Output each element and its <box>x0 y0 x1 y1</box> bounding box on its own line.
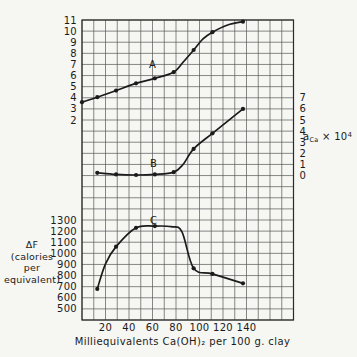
x-tick-labels: 20406080100120140 <box>99 322 257 333</box>
axis-tick-label: 3 <box>70 103 77 114</box>
data-point <box>210 30 214 34</box>
data-point <box>241 20 245 24</box>
axis-tick-label: 8 <box>70 48 77 59</box>
x-tick-label: 20 <box>99 322 112 333</box>
data-point <box>241 281 245 285</box>
axis-tick-label: 600 <box>57 292 77 303</box>
axis-tick-label: 1300 <box>50 215 77 226</box>
b-axis-title-sup: 4 <box>348 131 353 139</box>
axis-tick-label: 7 <box>300 92 307 103</box>
data-point <box>172 170 176 174</box>
axis-tick-label: 5 <box>300 115 307 126</box>
a-axis-ticks: 111098765432 <box>64 15 77 126</box>
axis-tick-label: 2 <box>300 148 307 159</box>
axis-tick-label: 9 <box>70 37 77 48</box>
axis-tick-label: 7 <box>70 59 77 70</box>
x-tick-label: 40 <box>122 322 135 333</box>
data-point <box>114 245 118 249</box>
data-point <box>95 287 99 291</box>
data-point <box>134 226 138 230</box>
axis-tick-label: 10 <box>64 26 77 37</box>
b-axis-title-mid: × 10 <box>319 131 348 142</box>
curve-C-label: C <box>150 215 157 226</box>
x-tick-label: 60 <box>146 322 159 333</box>
x-axis-title: Milliequivalents Ca(OH)₂ per 100 g. clay <box>0 336 357 347</box>
data-point <box>172 70 176 74</box>
curve-C-line <box>97 226 243 289</box>
axis-tick-label: 6 <box>70 70 77 81</box>
axis-tick-label: 5 <box>70 81 77 92</box>
c-axis-title: ΔF (calories per equivalent) <box>0 239 64 285</box>
data-point <box>114 88 118 92</box>
data-point <box>192 266 196 270</box>
data-point <box>134 81 138 85</box>
data-point <box>210 131 214 135</box>
axis-tick-label: 4 <box>70 92 77 103</box>
curve-A-line <box>82 22 243 103</box>
axis-tick-label: 0 <box>300 170 307 181</box>
grid <box>82 20 294 320</box>
x-tick-label: 100 <box>190 322 210 333</box>
data-point <box>80 100 84 104</box>
data-point <box>241 107 245 111</box>
x-tick-label: 80 <box>169 322 182 333</box>
axis-tick-label: 2 <box>70 115 77 126</box>
b-axis-title: aCa × 104 <box>303 131 352 144</box>
curve-A-label: A <box>149 59 156 70</box>
data-point <box>134 173 138 177</box>
data-point <box>210 272 214 276</box>
curve-B-label: B <box>150 158 157 169</box>
x-tick-label: 140 <box>237 322 257 333</box>
data-point <box>153 76 157 80</box>
axis-tick-label: 500 <box>57 303 77 314</box>
x-tick-label: 120 <box>213 322 233 333</box>
data-point <box>153 172 157 176</box>
axis-tick-label: 1200 <box>50 226 77 237</box>
b-axis-title-sub: Ca <box>309 136 318 144</box>
data-point <box>95 95 99 99</box>
axis-tick-label: 11 <box>64 15 77 26</box>
curve-A: A <box>80 20 245 105</box>
data-point <box>114 172 118 176</box>
data-point <box>192 147 196 151</box>
axis-tick-label: 1 <box>300 159 307 170</box>
data-point <box>95 171 99 175</box>
data-point <box>192 48 196 52</box>
axis-tick-label: 6 <box>300 103 307 114</box>
